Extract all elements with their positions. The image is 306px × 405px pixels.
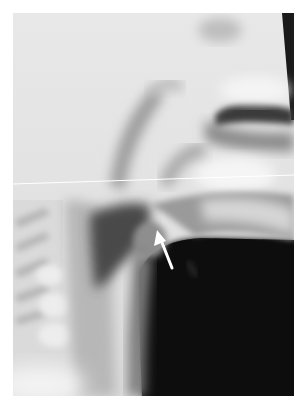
arrow-icon <box>154 230 172 268</box>
arrow-annotation <box>0 0 306 405</box>
